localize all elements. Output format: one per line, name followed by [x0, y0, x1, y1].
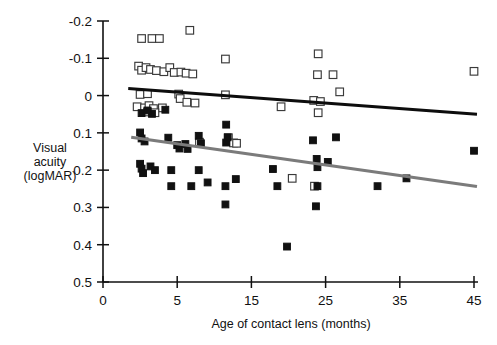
data-point-open [336, 88, 344, 96]
data-point-open [233, 139, 241, 147]
data-point-filled [223, 121, 230, 128]
data-point-filled [270, 166, 277, 173]
y-tick-label: 0.3 [73, 200, 92, 215]
data-point-filled [168, 183, 175, 190]
y-tick-label: -0.1 [69, 51, 92, 66]
data-point-filled [232, 176, 239, 183]
data-point-open [136, 91, 144, 99]
data-point-filled [223, 139, 230, 146]
y-tick-label: 0 [84, 89, 92, 104]
data-point-filled [195, 132, 202, 139]
y-tick-labels: -0.2-0.100.10.20.30.40.5 [69, 14, 93, 290]
data-point-filled [204, 179, 211, 186]
data-point-filled [162, 106, 169, 113]
data-point-filled [374, 183, 381, 190]
data-point-open [183, 98, 191, 106]
data-point-filled [471, 147, 478, 154]
data-point-open [314, 109, 322, 117]
y-tick-label: -0.2 [69, 14, 92, 29]
data-point-filled [313, 203, 320, 210]
data-point-open [191, 99, 199, 107]
data-point-filled [195, 167, 202, 174]
y-tick-label: 0.1 [73, 126, 92, 141]
data-point-open [314, 71, 322, 79]
data-point-open [314, 50, 322, 58]
y-axis-title-line-2: acuity [34, 155, 67, 169]
data-point-filled [152, 167, 159, 174]
data-point-filled [140, 170, 147, 177]
data-point-open [153, 67, 161, 75]
data-point-open [222, 55, 230, 63]
scatter-plot-svg: -0.2-0.100.10.20.30.40.5 0515253545 Visu… [0, 0, 497, 345]
x-tick-label: 35 [392, 293, 407, 308]
data-point-open [156, 35, 164, 43]
y-axis-title-line-1: Visual [33, 141, 67, 155]
x-tick-label: 0 [99, 293, 107, 308]
data-point-open [288, 175, 296, 183]
x-tick-label: 45 [466, 293, 481, 308]
data-point-filled [188, 183, 195, 190]
data-point-filled [222, 201, 229, 208]
data-point-open [148, 35, 156, 43]
data-point-open [329, 71, 337, 79]
data-point-open [138, 35, 146, 43]
trend-lines [128, 88, 477, 186]
filled-group-trend [131, 137, 477, 186]
data-point-filled [144, 107, 151, 114]
x-tick-label: 25 [318, 293, 333, 308]
data-point-filled [168, 167, 175, 174]
x-tick-labels: 0515253545 [99, 293, 481, 308]
data-point-filled [284, 243, 291, 250]
x-axis-title: Age of contact lens (months) [211, 317, 370, 331]
data-point-open [186, 27, 194, 35]
y-tick-label: 0.5 [73, 275, 92, 290]
series-open-squares [133, 27, 477, 190]
data-point-filled [222, 183, 229, 190]
data-point-filled [165, 134, 172, 141]
data-point-filled [333, 134, 340, 141]
y-axis-title-line-3: (logMAR) [24, 169, 77, 183]
data-point-open [277, 103, 285, 111]
data-point-filled [310, 137, 317, 144]
data-point-filled [274, 183, 281, 190]
data-point-open [189, 70, 197, 78]
chart-figure: -0.2-0.100.10.20.30.40.5 0515253545 Visu… [0, 0, 497, 345]
data-point-open [470, 68, 478, 76]
x-tick-label: 5 [173, 293, 181, 308]
data-point-filled [314, 183, 321, 190]
x-tick-label: 15 [244, 293, 259, 308]
data-point-filled [313, 156, 320, 163]
y-axis-title: Visual acuity (logMAR) [24, 141, 77, 183]
y-tick-label: 0.4 [73, 238, 92, 253]
